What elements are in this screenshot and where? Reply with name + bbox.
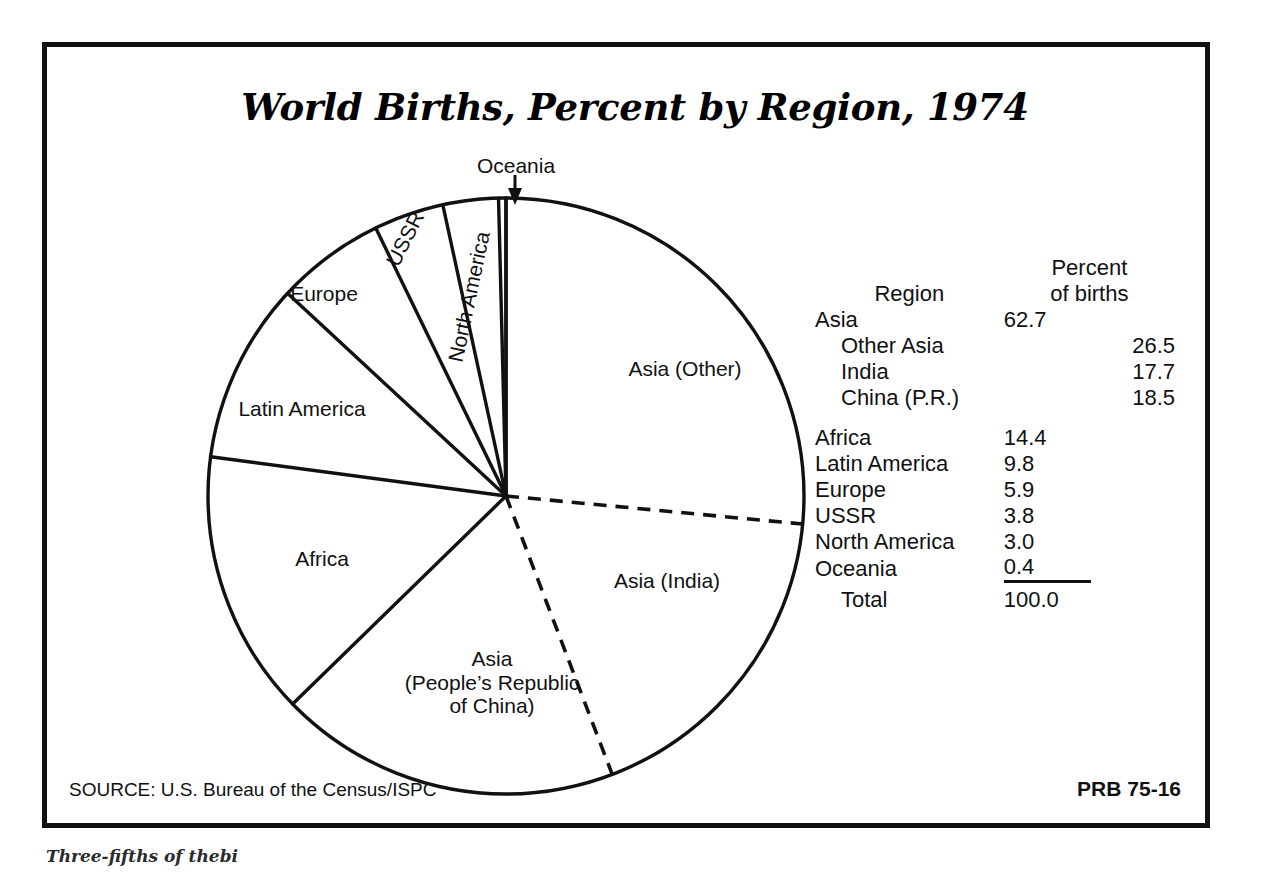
- publication-code: PRB 75-16: [1077, 777, 1181, 801]
- table-body: Asia62.7Other Asia26.5India17.7China (P.…: [815, 307, 1175, 613]
- pie-label-asia-other: Asia (Other): [565, 357, 805, 381]
- source-note: SOURCE: U.S. Bureau of the Census/ISPC: [69, 779, 437, 801]
- region-cell: Other Asia: [815, 333, 1004, 359]
- table-row: Oceania0.4: [815, 554, 1175, 581]
- subpercent-cell: [1091, 554, 1175, 581]
- column-header-region: Region: [815, 255, 1004, 307]
- region-cell: Oceania: [815, 554, 1004, 581]
- region-cell: Latin America: [815, 451, 1004, 477]
- total-label: Total: [815, 582, 1004, 613]
- column-header-percent-line2: of births: [1004, 281, 1175, 307]
- column-header-percent-line1: Percent: [1004, 255, 1175, 281]
- subpercent-cell: [1091, 451, 1175, 477]
- percent-cell: 3.8: [1004, 503, 1091, 529]
- percent-cell: 5.9: [1004, 477, 1091, 503]
- region-cell: Africa: [815, 425, 1004, 451]
- pie-label-china-line1: Asia: [472, 647, 513, 670]
- subpercent-cell: [1091, 503, 1175, 529]
- percent-cell: [1004, 385, 1091, 411]
- percent-cell: 62.7: [1004, 307, 1091, 333]
- total-value: 100.0: [1004, 582, 1091, 613]
- pie-label-europe: Europe: [254, 282, 394, 306]
- table-row: Latin America9.8: [815, 451, 1175, 477]
- table-row: Europe5.9: [815, 477, 1175, 503]
- pie-label-china: Asia (People’s Republic of China): [362, 647, 622, 718]
- percent-cell: 9.8: [1004, 451, 1091, 477]
- region-cell: North America: [815, 529, 1004, 555]
- subpercent-cell: [1091, 307, 1175, 333]
- percent-table: Region Percent of births Asia62.7Other A…: [815, 255, 1175, 613]
- percent-cell: [1004, 359, 1091, 385]
- region-cell: USSR: [815, 503, 1004, 529]
- percent-cell: [1004, 333, 1091, 359]
- table-row: Asia62.7: [815, 307, 1175, 333]
- total-sub-empty: [1091, 582, 1175, 613]
- percent-cell: 14.4: [1004, 425, 1091, 451]
- pie-label-oceania: Oceania: [456, 154, 576, 178]
- pie-label-asia-india: Asia (India): [552, 569, 782, 593]
- subpercent-cell: 26.5: [1091, 333, 1175, 359]
- table-row: USSR3.8: [815, 503, 1175, 529]
- region-cell: China (P.R.): [815, 385, 1004, 411]
- subpercent-cell: 17.7: [1091, 359, 1175, 385]
- table-row: North America3.0: [815, 529, 1175, 555]
- pie-label-africa: Africa: [232, 547, 412, 571]
- pie-label-china-line3: of China): [449, 694, 534, 717]
- region-cell: Europe: [815, 477, 1004, 503]
- poster-frame: World Births, Percent by Region, 1974 Oc…: [42, 42, 1210, 828]
- table-header: Region Percent of births: [815, 255, 1175, 307]
- table-total-row: Total100.0: [815, 582, 1175, 613]
- subpercent-cell: [1091, 425, 1175, 451]
- subpercent-cell: [1091, 477, 1175, 503]
- table-row: Africa14.4: [815, 425, 1175, 451]
- region-cell: India: [815, 359, 1004, 385]
- subpercent-cell: [1091, 529, 1175, 555]
- region-cell: Asia: [815, 307, 1004, 333]
- table-row: India17.7: [815, 359, 1175, 385]
- legend-table: Region Percent of births Asia62.7Other A…: [815, 255, 1175, 613]
- percent-cell: 3.0: [1004, 529, 1091, 555]
- below-frame-caption: Three-fifths of thebi: [46, 846, 466, 872]
- table-row: China (P.R.)18.5: [815, 385, 1175, 411]
- table-header-row: Region Percent of births: [815, 255, 1175, 307]
- table-spacer-row: [815, 411, 1175, 425]
- table-row: Other Asia26.5: [815, 333, 1175, 359]
- column-header-percent: Percent of births: [1004, 255, 1175, 307]
- pie-label-china-line2: (People’s Republic: [405, 671, 580, 694]
- percent-cell: 0.4: [1004, 554, 1091, 581]
- subpercent-cell: 18.5: [1091, 385, 1175, 411]
- pie-label-latin-america: Latin America: [192, 397, 412, 421]
